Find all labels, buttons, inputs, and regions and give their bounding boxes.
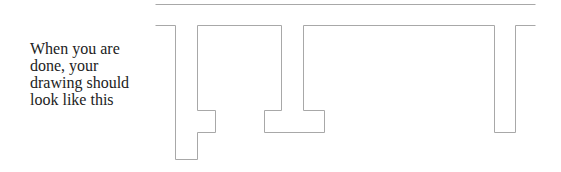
drawing-outline	[156, 26, 536, 160]
example-drawing	[0, 0, 561, 172]
